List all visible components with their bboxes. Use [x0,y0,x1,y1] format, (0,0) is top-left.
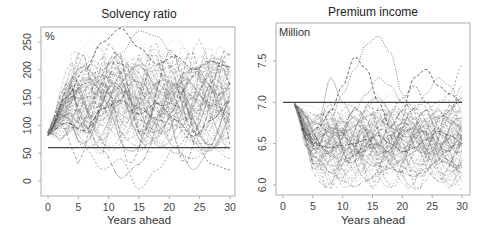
x-tick-label: 25 [426,200,438,212]
x-axis-label: Years ahead [107,214,171,226]
x-tick-label: 10 [337,200,349,212]
y-tick-label: 0 [21,178,33,184]
premium-income-chart: Premium income Million 051015202530 6.06… [256,5,470,226]
y-tick-label: 50 [21,147,33,159]
x-tick-label: 5 [310,200,316,212]
unit-label: Million [279,26,310,38]
x-tick-label: 15 [367,200,379,212]
y-tick-label: 7.0 [256,95,268,110]
x-tick-label: 15 [133,201,145,213]
y-axis: 6.06.57.07.5 [256,54,276,193]
x-tick-label: 25 [194,201,206,213]
chart-title: Premium income [328,5,418,19]
y-tick-label: 200 [21,61,33,79]
y-tick-label: 150 [21,89,33,107]
y-tick-label: 6.5 [256,136,268,151]
x-tick-label: 20 [396,200,408,212]
x-tick-label: 0 [45,201,51,213]
x-tick-label: 30 [456,200,468,212]
chart-canvas: Solvency ratio % 051015202530 0501001502… [0,0,494,236]
y-axis: 050100150200250 [21,33,41,184]
x-tick-label: 20 [163,201,175,213]
y-tick-label: 100 [21,116,33,134]
y-tick-label: 7.5 [256,54,268,69]
x-axis-label: Years ahead [341,214,405,226]
unit-label: % [45,30,55,42]
x-axis: 051015202530 [45,196,236,213]
x-tick-label: 0 [280,200,286,212]
simulation-paths [295,36,462,191]
y-tick-label: 250 [21,33,33,51]
y-tick-label: 6.0 [256,178,268,193]
simulation-paths [48,28,230,189]
solvency-ratio-chart: Solvency ratio % 051015202530 0501001502… [21,7,236,226]
x-tick-label: 30 [224,201,236,213]
x-tick-label: 5 [75,201,81,213]
chart-title: Solvency ratio [101,7,177,21]
x-tick-label: 10 [103,201,115,213]
x-axis: 051015202530 [280,195,468,212]
